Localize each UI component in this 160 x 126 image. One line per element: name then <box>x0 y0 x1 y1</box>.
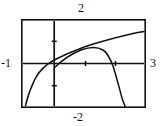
plot-area <box>21 19 146 108</box>
axis-label-top: 2 <box>78 2 84 14</box>
axis-label-right: 3 <box>150 57 156 69</box>
graph-screenshot: 2 -1 3 -2 <box>0 0 160 126</box>
axis-label-left: -1 <box>1 57 11 69</box>
plot-svg <box>21 19 146 108</box>
axis-label-bottom: -2 <box>73 111 83 123</box>
